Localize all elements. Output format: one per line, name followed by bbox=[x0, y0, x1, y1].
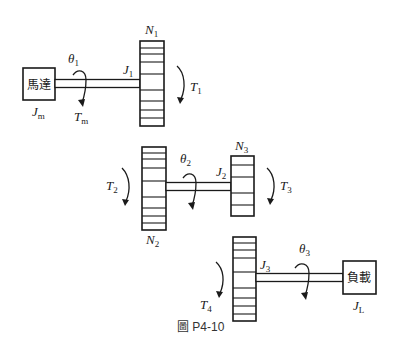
rotation-arrow-theta2 bbox=[183, 174, 196, 210]
torque-arrow-t3 bbox=[267, 168, 274, 205]
torque-t3-label: T3 bbox=[280, 178, 292, 195]
motor-inertia-label: Jm bbox=[32, 104, 45, 121]
torque-arrow-t4 bbox=[216, 262, 223, 298]
shaft-1 bbox=[55, 80, 140, 88]
gear-n3 bbox=[231, 156, 254, 216]
torque-tm-label: Tm bbox=[74, 109, 88, 126]
inertia-j3-label: J3 bbox=[260, 257, 271, 274]
gear-train-diagram: 馬達 Jm θ1 Tm J1 N1 T1 T2 bbox=[0, 0, 399, 355]
inertia-j1-label: J1 bbox=[123, 62, 133, 79]
theta3-label: θ3 bbox=[299, 241, 310, 258]
gear-n3-label: N3 bbox=[234, 138, 249, 155]
rotation-arrow-theta1 bbox=[73, 71, 86, 107]
torque-t1-label: T1 bbox=[190, 79, 202, 96]
shaft-3 bbox=[256, 274, 343, 282]
torque-arrow-t1 bbox=[177, 66, 184, 104]
torque-t2-label: T2 bbox=[106, 178, 118, 195]
theta2-label: θ2 bbox=[180, 151, 191, 168]
theta1-label: θ1 bbox=[68, 51, 79, 68]
gear-n1 bbox=[140, 41, 164, 126]
shaft-2 bbox=[166, 183, 231, 191]
torque-arrow-t2 bbox=[122, 168, 129, 206]
motor-label: 馬達 bbox=[27, 78, 51, 92]
gear-n1-label: N1 bbox=[144, 22, 158, 39]
gear-n2 bbox=[142, 147, 166, 230]
load-inertia-label: JL bbox=[353, 298, 364, 315]
gear-n2-label: N2 bbox=[145, 232, 159, 249]
torque-t4-label: T4 bbox=[200, 297, 212, 314]
load-label: 負載 bbox=[347, 271, 371, 285]
gear-n4 bbox=[233, 237, 256, 321]
figure-caption: 圖 P4-10 bbox=[177, 320, 225, 334]
inertia-j2-label: J2 bbox=[216, 164, 226, 181]
